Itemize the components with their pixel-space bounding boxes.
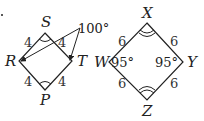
angle-mark-s	[39, 39, 51, 42]
side-label-tp: 4	[58, 74, 66, 89]
side-label-xy: 6	[170, 34, 178, 49]
rhombus-xwyz: X W Y Z 6 6 6 6 95° 95°	[94, 4, 199, 120]
side-label-wz: 6	[118, 76, 126, 91]
side-label-st: 4	[58, 35, 66, 50]
vertex-label-w: W	[94, 53, 111, 71]
side-label-yz: 6	[170, 76, 178, 91]
side-label-rp: 4	[24, 74, 32, 89]
vertex-label-y: Y	[187, 53, 199, 71]
vertex-label-x: X	[141, 4, 154, 22]
angle-label-y: 95°	[155, 55, 178, 70]
side-label-xw: 6	[118, 34, 126, 49]
angle-label-w: 95°	[111, 55, 134, 70]
vertex-label-p: P	[39, 91, 51, 109]
vertex-label-t: T	[77, 52, 88, 70]
vertex-label-z: Z	[141, 102, 153, 120]
angle-mark-x	[139, 33, 155, 37]
bullet-dot	[1, 14, 3, 16]
diagram-canvas: S R T P 4 4 4 4 100° X W Y Z 6 6 6 6 95°…	[0, 0, 204, 121]
vertex-label-r: R	[4, 52, 16, 70]
side-label-sr: 4	[24, 35, 32, 50]
angle-label-100: 100°	[78, 21, 109, 36]
angle-mark-p	[39, 82, 51, 85]
vertex-label-s: S	[41, 13, 51, 31]
geometry-figure: S R T P 4 4 4 4 100° X W Y Z 6 6 6 6 95°…	[0, 0, 204, 121]
angle-mark-z	[139, 87, 155, 91]
